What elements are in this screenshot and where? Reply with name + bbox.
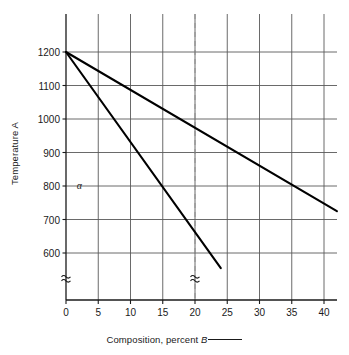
y-tick-label: 1000 [20, 114, 60, 125]
x-axis-title-arrow [208, 339, 242, 340]
x-tick-label: 0 [51, 307, 81, 318]
y-tick-label: 800 [20, 181, 60, 192]
y-tick-label: 700 [20, 214, 60, 225]
x-tick-label: 30 [245, 307, 275, 318]
y-tick-label: 900 [20, 147, 60, 158]
x-tick-label: 35 [277, 307, 307, 318]
x-axis-title-main: Composition, percent [107, 334, 202, 345]
x-tick-label: 20 [180, 307, 210, 318]
phase-diagram-figure: Temperature A Composition, percent B 120… [0, 0, 349, 355]
alpha-phase-label: α [77, 181, 82, 191]
x-tick-label: 15 [148, 307, 178, 318]
series-line-liquidus [66, 52, 337, 211]
x-axis-title: Composition, percent B [0, 334, 349, 345]
y-tick-label: 1100 [20, 80, 60, 91]
y-tick-label: 600 [20, 248, 60, 259]
series-line-solidus [66, 52, 221, 268]
x-tick-label: 40 [309, 307, 339, 318]
x-tick-label: 10 [116, 307, 146, 318]
x-axis-title-component: B [201, 334, 207, 345]
x-tick-label: 25 [212, 307, 242, 318]
y-axis-title: Temperature A [9, 94, 20, 214]
y-tick-label: 1200 [20, 47, 60, 58]
x-tick-label: 5 [83, 307, 113, 318]
